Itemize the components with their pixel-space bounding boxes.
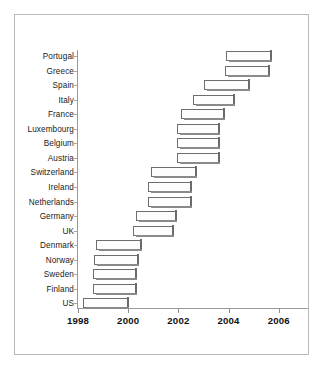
range-bar <box>148 182 191 192</box>
range-bar <box>177 153 218 163</box>
range-bar <box>225 66 269 76</box>
range-bar <box>93 284 136 294</box>
y-axis-label: Netherlands <box>29 197 74 206</box>
y-axis-tick <box>74 202 77 203</box>
y-axis-label: Finland <box>46 284 74 293</box>
y-axis-label: Switzerland <box>31 168 74 177</box>
y-axis-line <box>77 50 78 309</box>
plot-area: PortugalGreeceSpainItalyFranceLuxembourg… <box>15 15 310 356</box>
y-axis-label: France <box>48 110 74 119</box>
y-axis-category-labels: PortugalGreeceSpainItalyFranceLuxembourg… <box>15 15 74 356</box>
x-axis-tick <box>78 309 79 313</box>
y-axis-label: Sweden <box>44 270 74 279</box>
chart-figure: PortugalGreeceSpainItalyFranceLuxembourg… <box>14 14 309 355</box>
x-axis-tick-label: 2004 <box>218 315 240 326</box>
y-axis-label: Spain <box>53 81 74 90</box>
range-bar <box>96 240 141 250</box>
y-axis-label: Denmark <box>40 241 74 250</box>
y-axis-tick <box>74 187 77 188</box>
y-axis-tick <box>74 303 77 304</box>
y-axis-tick <box>74 231 77 232</box>
range-bar <box>136 211 176 221</box>
range-bar <box>151 167 196 177</box>
range-bar <box>83 298 128 308</box>
x-axis-tick-label: 2002 <box>167 315 189 326</box>
y-axis-tick <box>74 56 77 57</box>
y-axis-label: Luxembourg <box>27 124 74 133</box>
range-bar <box>94 255 138 265</box>
range-bar <box>93 269 136 279</box>
x-axis-tick <box>279 309 280 313</box>
range-bar <box>133 226 173 236</box>
x-axis-tick <box>178 309 179 313</box>
y-axis-label: Portugal <box>43 52 74 61</box>
y-axis-label: Greece <box>47 66 74 75</box>
y-axis-tick <box>74 158 77 159</box>
x-axis-tick <box>229 309 230 313</box>
range-bar <box>148 197 191 207</box>
y-axis-tick <box>74 143 77 144</box>
x-axis-tick-label: 1998 <box>67 315 89 326</box>
range-bar <box>204 80 249 90</box>
y-axis-tick <box>74 260 77 261</box>
y-axis-tick <box>74 172 77 173</box>
range-bar <box>193 95 233 105</box>
y-axis-tick <box>74 85 77 86</box>
y-axis-label: Italy <box>58 95 74 104</box>
range-bar <box>226 51 271 61</box>
x-axis-tick <box>128 309 129 313</box>
y-axis-label: Ireland <box>48 182 74 191</box>
page-caption <box>14 360 314 370</box>
range-bar <box>181 109 224 119</box>
y-axis-tick <box>74 245 77 246</box>
x-axis-tick-label: 2000 <box>117 315 139 326</box>
y-axis-label: Germany <box>40 212 74 221</box>
y-axis-tick <box>74 100 77 101</box>
y-axis-tick <box>74 274 77 275</box>
y-axis-label: US <box>62 299 74 308</box>
y-axis-tick <box>74 289 77 290</box>
range-bar <box>177 138 218 148</box>
y-axis-tick <box>74 129 77 130</box>
y-axis-tick <box>74 71 77 72</box>
y-axis-label: Belgium <box>44 139 74 148</box>
range-bar <box>177 124 218 134</box>
y-axis-tick <box>74 216 77 217</box>
y-axis-label: UK <box>62 226 74 235</box>
y-axis-label: Norway <box>46 255 74 264</box>
x-axis-tick-label: 2006 <box>268 315 290 326</box>
y-axis-label: Austria <box>48 153 74 162</box>
y-axis-tick <box>74 114 77 115</box>
